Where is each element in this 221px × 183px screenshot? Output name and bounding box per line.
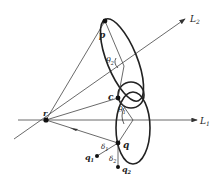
diagram-canvas: L2 L1 r p c q q1 q2 θ2 θ1 δ1 δ2 xyxy=(0,0,221,183)
label-q1: q1 xyxy=(85,152,94,163)
label-delta2: δ2 xyxy=(109,155,116,164)
point-p xyxy=(103,19,108,24)
label-q2: q2 xyxy=(122,164,132,175)
ray-arrowhead xyxy=(70,128,78,131)
label-theta2: θ2 xyxy=(106,56,114,66)
point-c xyxy=(116,96,121,101)
label-p: p xyxy=(99,30,106,40)
point-q2 xyxy=(116,165,120,169)
ray-r-p xyxy=(46,21,105,120)
label-delta1: δ1 xyxy=(101,143,108,152)
label-L1: L1 xyxy=(199,116,210,127)
ray-r-q xyxy=(46,120,118,143)
point-q xyxy=(116,141,121,146)
point-r xyxy=(43,117,48,122)
label-q: q xyxy=(123,140,129,150)
point-q1 xyxy=(95,154,99,158)
label-L2: L2 xyxy=(189,14,200,25)
label-r: r xyxy=(43,108,48,118)
diagram-svg: L2 L1 r p c q q1 q2 θ2 θ1 δ1 δ2 xyxy=(0,0,221,183)
label-c: c xyxy=(108,92,114,102)
